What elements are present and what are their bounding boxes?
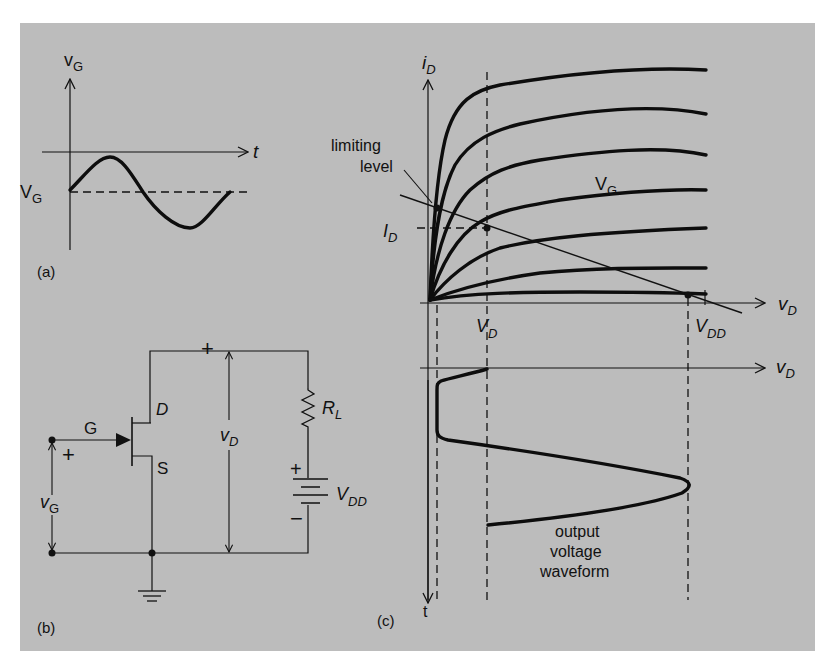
id-axis-label: iD	[422, 52, 436, 77]
input-vg-label: vG	[40, 492, 59, 516]
curve-1	[430, 69, 706, 300]
operating-point	[484, 225, 491, 232]
curve-5	[430, 228, 706, 300]
limiting-label-line2: level	[360, 158, 393, 175]
source-label: S	[157, 459, 168, 478]
caption-a: (a)	[37, 263, 55, 280]
drain-label: D	[156, 400, 168, 419]
gate-label: G	[84, 419, 97, 438]
cutoff-point	[685, 292, 692, 299]
input-terminal-bottom	[49, 550, 56, 557]
drain-curve-family	[430, 69, 706, 300]
vdd-label: VDD	[695, 316, 726, 341]
vd-axis-lower-label: vD	[776, 356, 795, 381]
vd-axis-label: vD	[778, 293, 797, 318]
curve-3	[430, 150, 706, 300]
output-waveform	[437, 369, 689, 525]
input-plus-sign: +	[62, 442, 75, 467]
output-label-line2: voltage	[550, 543, 602, 560]
output-vd-label: vD	[220, 425, 238, 449]
battery-minus-sign: −	[290, 506, 303, 531]
battery-label: VDD	[336, 484, 367, 509]
bottom-wire	[52, 505, 308, 553]
t-axis-label: t	[253, 141, 259, 162]
mosfet-amplifier-figure: vG t VG (a)	[0, 0, 830, 663]
caption-b: (b)	[37, 619, 55, 636]
output-label-line3: waveform	[539, 563, 609, 580]
panel-b-circuit: G D S + vG + vD RL + − VDD (b)	[37, 336, 367, 636]
battery-plus-sign: +	[290, 458, 302, 480]
id-operating-label: ID	[383, 221, 397, 245]
input-terminal-top	[49, 437, 56, 444]
vg-axis-label: vG	[64, 50, 83, 74]
ground-icon	[138, 553, 166, 601]
resistor-label: RL	[322, 398, 342, 422]
curve-7	[430, 292, 706, 300]
panel-a-gate-waveform: vG t VG (a)	[20, 50, 259, 280]
t-axis-down-label: t	[423, 603, 428, 620]
caption-c: (c)	[377, 612, 395, 629]
gate-arrow-icon	[116, 433, 131, 447]
output-plus-sign: +	[201, 336, 214, 361]
limiting-label-line1: limiting	[331, 137, 381, 154]
output-label-line1: output	[555, 523, 600, 540]
battery-icon	[293, 479, 328, 503]
limiting-point	[434, 205, 441, 212]
resistor-icon	[302, 388, 314, 478]
bias-label: VG	[20, 182, 42, 206]
panel-c-characteristics: iD limiting level ID VG VD VDD vD vD t o…	[331, 52, 797, 629]
curve-4	[430, 190, 706, 300]
source-wire	[132, 456, 152, 553]
